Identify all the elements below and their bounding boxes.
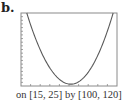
parabola-curve: [27, 13, 113, 84]
plot-frame: [21, 13, 117, 86]
axis-ticks: [21, 17, 107, 86]
window-caption: on [15, 25] by [100, 120]: [16, 89, 125, 100]
